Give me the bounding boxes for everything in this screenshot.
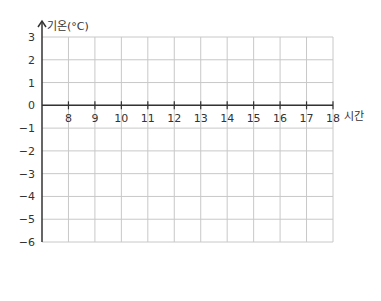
y-axis-label: 기온(°C) xyxy=(47,20,89,33)
x-tick-label: 14 xyxy=(220,112,234,125)
y-tick-label: 2 xyxy=(28,54,35,67)
y-tick-label: −6 xyxy=(19,236,35,249)
y-tick-label: 3 xyxy=(28,31,35,44)
x-tick-labels: 89101112131415161718 xyxy=(65,112,340,125)
y-tick-labels: 3210−1−2−3−4−5−6 xyxy=(19,31,35,249)
x-tick-label: 10 xyxy=(114,112,128,125)
y-tick-label: −1 xyxy=(19,122,35,135)
x-tick-label: 11 xyxy=(141,112,155,125)
x-tick-label: 17 xyxy=(300,112,314,125)
x-tick-label: 16 xyxy=(273,112,287,125)
x-tick-label: 8 xyxy=(65,112,72,125)
x-tick-label: 12 xyxy=(167,112,181,125)
y-tick-label: 1 xyxy=(28,77,35,90)
y-tick-label: −2 xyxy=(19,145,35,158)
x-tick-label: 15 xyxy=(247,112,261,125)
axes xyxy=(38,21,333,242)
grid-lines xyxy=(42,37,333,242)
x-axis-label: 시간 xyxy=(344,110,364,123)
y-tick-label: −3 xyxy=(19,168,35,181)
x-tick-label: 13 xyxy=(194,112,208,125)
y-tick-label: −5 xyxy=(19,213,35,226)
x-tick-label: 9 xyxy=(91,112,98,125)
y-tick-label: 0 xyxy=(28,99,35,112)
y-tick-label: −4 xyxy=(19,190,35,203)
x-tick-label: 18 xyxy=(326,112,340,125)
temperature-grid-chart: 89101112131415161718 3210−1−2−3−4−5−6 기온… xyxy=(0,0,381,301)
